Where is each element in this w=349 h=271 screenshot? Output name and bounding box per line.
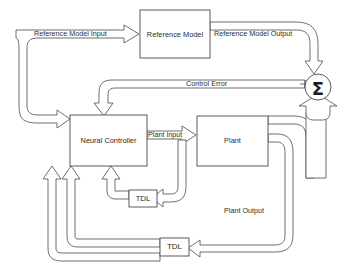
ribbon-reference-model-input xyxy=(16,25,139,128)
signal-label-reference-model-output: Reference Model Output xyxy=(214,29,292,38)
diagram-svg: Reference Model Neural Controller Plant … xyxy=(0,0,349,271)
block-tdl-lower-label: TDL xyxy=(167,242,183,251)
signal-label-reference-model-input: Reference Model Input xyxy=(34,29,107,38)
ribbon-tdl-upper-to-controller xyxy=(102,166,129,199)
signal-label-plant-output: Plant Output xyxy=(224,206,264,215)
block-diagram-canvas: Reference Model Neural Controller Plant … xyxy=(0,0,349,271)
block-neural-controller-label: Neural Controller xyxy=(81,136,137,145)
signal-label-plant-input: Plant Input xyxy=(148,130,182,139)
block-reference-model-label: Reference Model xyxy=(147,30,204,39)
block-tdl-upper-label: TDL xyxy=(135,194,151,203)
block-plant-label: Plant xyxy=(224,136,241,145)
node-summation-label: Σ xyxy=(312,78,324,99)
signal-label-control-error: Control Error xyxy=(186,79,228,88)
